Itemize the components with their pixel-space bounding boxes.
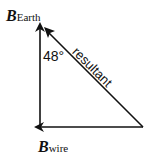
b-earth-subscript: Earth xyxy=(17,11,41,23)
b-earth-symbol: B xyxy=(6,7,17,24)
angle-label: 48° xyxy=(43,48,64,64)
vector-diagram: BEarth 48° resultant Bwire xyxy=(0,0,153,164)
b-wire-label: Bwire xyxy=(38,138,68,156)
b-earth-label: BEarth xyxy=(6,7,41,25)
b-wire-subscript: wire xyxy=(49,142,69,154)
b-wire-symbol: B xyxy=(38,138,49,155)
